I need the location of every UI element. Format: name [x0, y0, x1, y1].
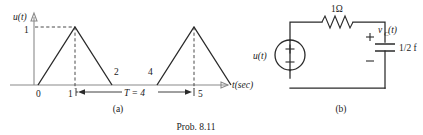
- capacitor-value-label: 1/2 f: [399, 43, 418, 53]
- rc-circuit: 1Ω u(t): [253, 4, 418, 115]
- waveform-plot: u(t) t(sec) 1 0 1 2 4 5: [10, 12, 253, 115]
- figure-prob-8-11: u(t) t(sec) 1 0 1 2 4 5: [0, 0, 423, 135]
- source-label: u(t): [253, 51, 267, 62]
- y-axis-label: u(t): [13, 12, 27, 23]
- period-label: T = 4: [124, 88, 145, 98]
- x-tick-label-0: 0: [36, 89, 41, 99]
- period-left-arrowhead: [78, 89, 85, 95]
- source-plus-sign: [286, 45, 295, 54]
- resistor: [322, 16, 353, 28]
- x-tick-label-1: 1: [68, 89, 73, 99]
- x-tick-label-5: 5: [198, 89, 203, 99]
- capacitor-voltage-argument: (t): [388, 25, 397, 36]
- x-axis-label: t(sec): [232, 80, 253, 91]
- x-axis: [10, 82, 228, 88]
- y-tick-label-1: 1: [24, 25, 29, 35]
- capacitor-voltage-symbol: v: [378, 25, 383, 35]
- y-axis: [31, 13, 37, 85]
- panel-b-label: (b): [335, 104, 346, 115]
- figure-caption: Prob. 8.11: [177, 122, 216, 132]
- resistor-label: 1Ω: [331, 4, 343, 14]
- x-tick-label-2: 2: [114, 67, 119, 77]
- capacitor-plus-sign: [366, 33, 374, 41]
- figure-canvas: u(t) t(sec) 1 0 1 2 4 5: [0, 0, 423, 135]
- x-tick-label-4: 4: [148, 67, 153, 77]
- period-dimension: T = 4: [76, 88, 194, 98]
- panel-a-label: (a): [113, 104, 124, 115]
- capacitor-voltage-label: v C (t): [378, 25, 397, 38]
- period-right-arrowhead: [185, 89, 192, 95]
- capacitor: [375, 44, 395, 51]
